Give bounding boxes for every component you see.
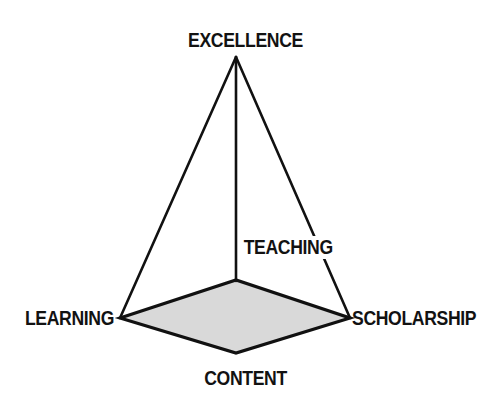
- pyramid-edge-apex-to-scholarship: [236, 57, 350, 318]
- vertex-label-scholarship: SCHOLARSHIP: [352, 308, 474, 328]
- pyramid-base-quad: [120, 280, 350, 353]
- pyramid-figure: [0, 0, 491, 404]
- vertex-label-excellence: EXCELLENCE: [29, 30, 461, 50]
- vertex-label-content: CONTENT: [29, 368, 461, 388]
- vertex-label-learning: LEARNING: [14, 308, 114, 328]
- pyramid-diagram: EXCELLENCE LEARNING SCHOLARSHIP CONTENT …: [0, 0, 491, 404]
- edge-label-teaching: TEACHING: [241, 236, 334, 259]
- pyramid-edge-apex-to-learning: [120, 57, 236, 318]
